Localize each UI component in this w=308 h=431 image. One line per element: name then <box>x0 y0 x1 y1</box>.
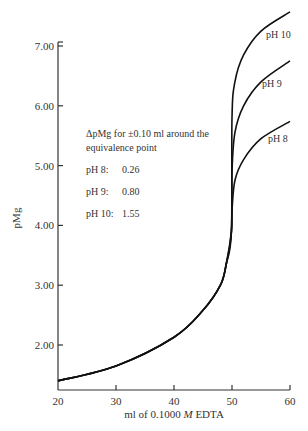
series-label: pH 8 <box>268 133 288 144</box>
y-axis-label: pMg <box>10 207 22 228</box>
annotation-box: ΔpMg for ±0.10 ml around theequivalence … <box>86 128 210 219</box>
annotation-row-value: 1.55 <box>122 208 140 219</box>
axes: 2.003.004.005.006.007.002030405060 <box>35 40 296 407</box>
titration-chart: 2.003.004.005.006.007.002030405060 pH 8p… <box>0 0 308 431</box>
x-axis-label: ml of 0.1000 M EDTA <box>124 408 224 420</box>
annotation-title: ΔpMg for ±0.10 ml around the <box>86 128 210 139</box>
curve-ph-8 <box>58 121 290 381</box>
annotation-row-label: pH 9: <box>86 186 109 197</box>
x-tick-label: 30 <box>111 395 123 407</box>
x-tick-label: 50 <box>227 395 239 407</box>
series-label: pH 10 <box>266 29 291 40</box>
x-tick-label: 60 <box>285 395 297 407</box>
y-tick-label: 4.00 <box>35 219 55 231</box>
labels: ml of 0.1000 M EDTApMg <box>10 207 224 420</box>
curve-ph-9 <box>58 61 290 381</box>
y-tick-label: 6.00 <box>35 100 55 112</box>
y-tick-label: 2.00 <box>35 339 55 351</box>
x-tick-label: 20 <box>53 395 65 407</box>
annotation-row-value: 0.26 <box>122 164 140 175</box>
y-tick-label: 5.00 <box>35 160 55 172</box>
annotation-row-label: pH 10: <box>86 208 114 219</box>
annotation-row-value: 0.80 <box>122 186 140 197</box>
y-tick-label: 7.00 <box>35 40 55 52</box>
series-label: pH 9 <box>262 78 282 89</box>
y-tick-label: 3.00 <box>35 279 55 291</box>
x-tick-label: 40 <box>169 395 181 407</box>
annotation-title-2: equivalence point <box>86 142 157 153</box>
annotation-row-label: pH 8: <box>86 164 109 175</box>
